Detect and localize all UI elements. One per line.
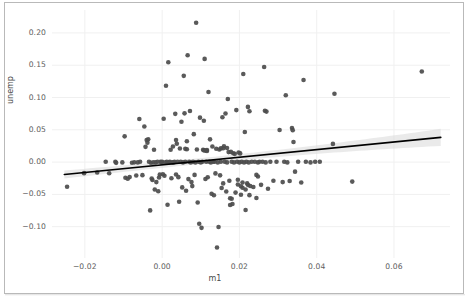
figure-shadow (5, 294, 465, 296)
gridlines (52, 10, 450, 258)
regression-line (64, 137, 440, 174)
y-tick-label: −0.10 (2, 222, 46, 231)
figure-canvas: 0.200.150.100.050.00−0.05−0.10 −0.020.00… (0, 0, 472, 303)
y-tick-label: 0.00 (2, 157, 46, 166)
y-tick-label: −0.05 (2, 189, 46, 198)
x-tick-label: 0.02 (215, 262, 263, 271)
scatter-plot-area (52, 10, 450, 258)
scatter-points (65, 20, 424, 249)
y-tick-label: 0.20 (2, 28, 46, 37)
y-axis-label: unemp (6, 76, 15, 104)
x-tick-label: 0.04 (293, 262, 341, 271)
plot-svg (52, 10, 450, 258)
confidence-band (64, 129, 440, 179)
x-axis-label-text: m1 (209, 274, 222, 283)
y-tick-label: 0.15 (2, 60, 46, 69)
x-tick-label: 0.00 (138, 262, 186, 271)
x-axis-label: m1 (0, 274, 472, 283)
x-tick-label: −0.02 (61, 262, 109, 271)
x-tick-label: 0.06 (370, 262, 418, 271)
y-tick-label: 0.05 (2, 125, 46, 134)
